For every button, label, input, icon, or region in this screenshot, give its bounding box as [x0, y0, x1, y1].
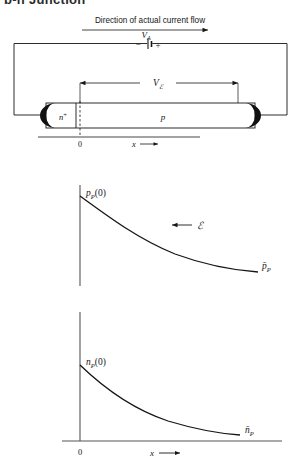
- electric-field-arrow-icon: [172, 223, 192, 227]
- electron-chart-intercept-label: nP(0): [86, 357, 106, 369]
- electron-chart-x-axis-label: x: [149, 448, 154, 458]
- electron-chart-origin-label: 0: [78, 447, 82, 457]
- hole-chart-intercept-label: pP(0): [85, 188, 106, 200]
- electric-field-label: ℰ: [197, 220, 204, 231]
- semiconductor-junction-figure: Direction of actual current flow VA − +: [0, 0, 301, 466]
- electron-chart-asymptote-label: n̄P: [245, 425, 254, 437]
- electron-concentration-curve: [80, 365, 240, 435]
- electron-concentration-chart: nP(0) n̄P 0 x: [62, 312, 282, 458]
- hole-chart-asymptote-label: p̄P: [261, 261, 271, 273]
- bar-x-axis-label: x: [131, 139, 136, 149]
- current-flow-label: Direction of actual current flow: [95, 16, 205, 25]
- bar-x-axis-arrow-icon: [140, 142, 158, 146]
- p-region-label: p: [160, 112, 166, 122]
- hole-concentration-chart: pP(0) ℰ p̄P: [80, 185, 271, 286]
- battery-minus-terminal-label: −: [135, 39, 140, 49]
- hole-concentration-curve: [80, 196, 258, 272]
- battery-voltage-label: VA: [141, 30, 151, 41]
- semiconductor-bar: [46, 103, 255, 128]
- internal-voltage-label: Vℰ: [153, 78, 164, 90]
- bar-origin-label: 0: [78, 140, 82, 149]
- battery-plus-terminal-label: +: [155, 40, 160, 50]
- electron-chart-x-axis-arrow-icon: [159, 451, 180, 455]
- circuit-diagram-group: Direction of actual current flow VA − +: [14, 16, 287, 149]
